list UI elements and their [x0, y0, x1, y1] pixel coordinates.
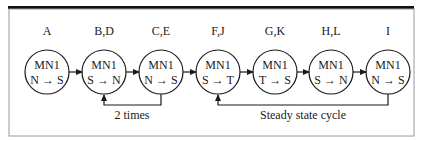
node-label-i: I — [386, 24, 390, 38]
node-title: MN1 — [148, 58, 173, 72]
node-label-fj: F,J — [211, 24, 225, 38]
node-transition: N → S — [371, 73, 404, 87]
node-transition: N → S — [30, 73, 63, 87]
loop-2-times: 2 times — [104, 94, 161, 122]
state-node-bd: MN1S → N — [82, 50, 126, 94]
loop-label-2-times: 2 times — [115, 108, 150, 122]
node-title: MN1 — [262, 58, 287, 72]
state-node-a: MN1N → S — [25, 50, 69, 94]
node-transition: S → N — [87, 73, 121, 87]
node-transition: T → S — [259, 73, 291, 87]
node-title: MN1 — [375, 58, 400, 72]
node-title: MN1 — [205, 58, 230, 72]
node-title: MN1 — [91, 58, 116, 72]
state-node-i: MN1N → S — [366, 50, 410, 94]
node-label-gk: G,K — [265, 24, 286, 38]
node-label-ce: C,E — [152, 24, 170, 38]
state-diagram: AB,DC,EF,JG,KH,LI MN1N → SMN1S → NMN1N →… — [0, 0, 434, 141]
state-node-fj: MN1S → T — [196, 50, 240, 94]
state-node-hl: MN1S → N — [309, 50, 353, 94]
node-title: MN1 — [318, 58, 343, 72]
loop-label-steady-state-cycle: Steady state cycle — [260, 108, 346, 122]
node-title: MN1 — [34, 58, 59, 72]
node-transition: S → T — [202, 73, 234, 87]
loop-steady-state-cycle: Steady state cycle — [218, 94, 388, 122]
node-label-bd: B,D — [94, 24, 114, 38]
node-label-hl: H,L — [322, 24, 341, 38]
node-label-a: A — [43, 24, 52, 38]
node-transition: S → N — [314, 73, 348, 87]
node-transition: N → S — [144, 73, 177, 87]
state-node-ce: MN1N → S — [139, 50, 183, 94]
state-node-gk: MN1T → S — [253, 50, 297, 94]
